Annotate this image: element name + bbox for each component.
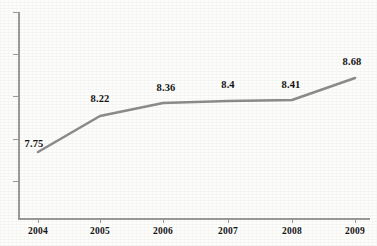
series-line [38, 78, 355, 152]
x-tick-label-2006: 2006 [153, 226, 173, 236]
data-label-2006: 8.36 [157, 82, 176, 93]
data-label-2008: 8.41 [282, 79, 301, 90]
x-tick-label-2008: 2008 [282, 226, 302, 236]
x-tick-label-2007: 2007 [218, 226, 238, 236]
data-label-2009: 8.68 [343, 56, 362, 67]
chart-container: 7.758.228.368.48.418.68 2004200520062007… [0, 0, 377, 246]
data-label-2007: 8.4 [221, 79, 234, 90]
data-label-2005: 8.22 [91, 93, 110, 104]
data-label-2004: 7.75 [25, 138, 44, 149]
series-plot [0, 0, 377, 246]
x-tick-label-2004: 2004 [28, 226, 48, 236]
x-tick-label-2009: 2009 [345, 226, 365, 236]
x-tick-label-2005: 2005 [90, 226, 110, 236]
